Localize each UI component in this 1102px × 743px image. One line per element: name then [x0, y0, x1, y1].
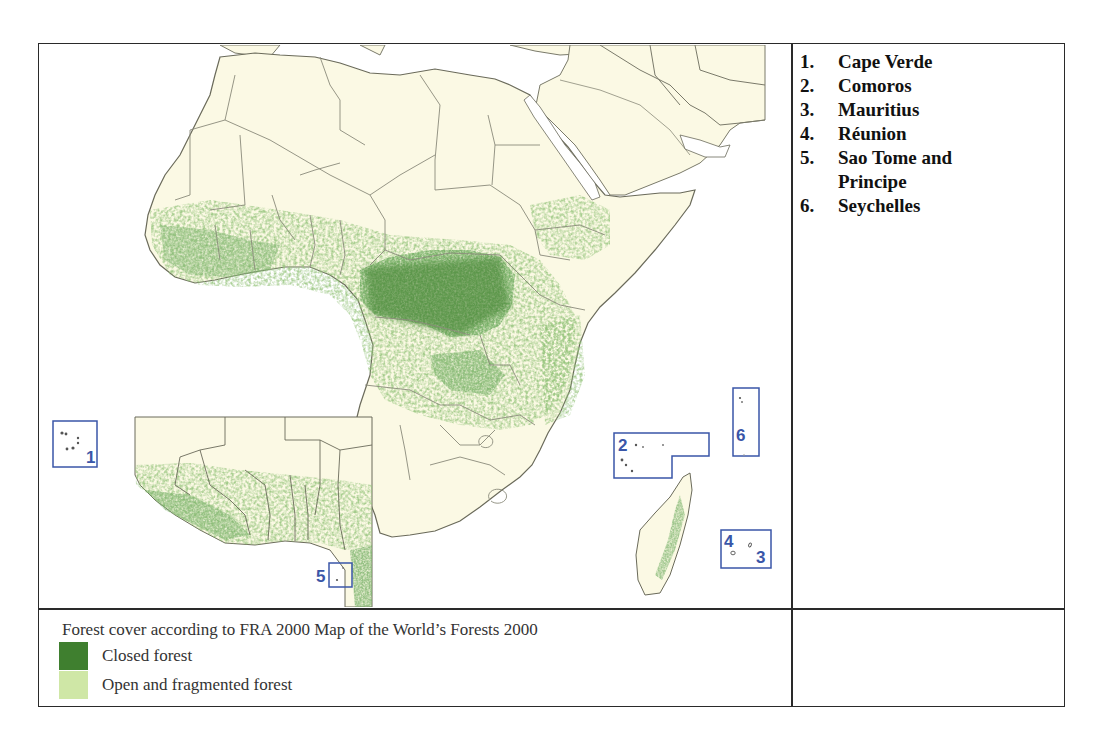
legend-title: Forest cover according to FRA 2000 Map o…: [62, 619, 538, 641]
madagascar: [636, 473, 692, 595]
table-row-divider: [38, 608, 1065, 610]
open-forest-swatch: [59, 671, 88, 699]
list-item: 3.Mauritius: [800, 98, 1008, 122]
island-box-2: 2: [614, 433, 709, 478]
list-item: 2.Comoros: [800, 74, 1008, 98]
list-item: 6.Seychelles: [800, 194, 1008, 218]
island-box-6: 6: [733, 388, 759, 456]
svg-text:1: 1: [86, 448, 95, 467]
svg-text:5: 5: [316, 567, 325, 586]
svg-text:2: 2: [618, 436, 627, 455]
africa-forest-map: 1 2 6 4 3 5: [40, 45, 790, 607]
legend-item-open-forest: Open and fragmented forest: [59, 670, 538, 699]
legend-item-closed-forest: Closed forest: [59, 641, 538, 670]
svg-text:4: 4: [724, 532, 734, 551]
island-box-1: 1: [53, 421, 97, 467]
island-box-3-4: 4 3: [721, 530, 771, 568]
svg-text:3: 3: [756, 548, 765, 567]
closed-forest-swatch: [59, 642, 88, 670]
list-item: 1.Cape Verde: [800, 50, 1008, 74]
west-africa-inset: [135, 417, 372, 607]
list-item: 5.Sao Tome and Principe: [800, 146, 1008, 194]
svg-text:6: 6: [736, 426, 745, 445]
map-legend: Forest cover according to FRA 2000 Map o…: [62, 619, 538, 699]
list-item: 4.Réunion: [800, 122, 1008, 146]
island-country-list: 1.Cape Verde 2.Comoros 3.Mauritius 4.Réu…: [800, 50, 1008, 218]
